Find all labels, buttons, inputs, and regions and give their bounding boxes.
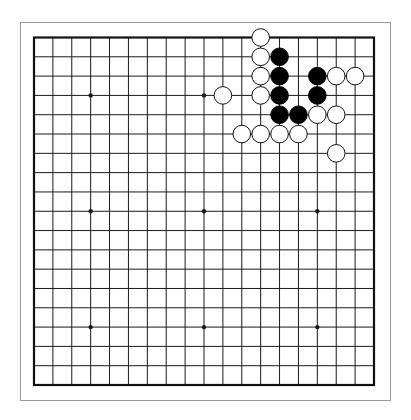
star-point	[88, 325, 92, 329]
black-stone[interactable]	[290, 106, 308, 124]
star-point	[88, 209, 92, 213]
white-stone[interactable]	[271, 125, 289, 143]
white-stone[interactable]	[214, 87, 232, 105]
black-stone[interactable]	[309, 87, 327, 105]
star-point	[88, 93, 92, 97]
star-point	[315, 325, 319, 329]
white-stone[interactable]	[233, 125, 251, 143]
white-stone[interactable]	[327, 145, 345, 163]
white-stone[interactable]	[252, 29, 270, 47]
black-stone[interactable]	[271, 48, 289, 66]
black-stone[interactable]	[271, 67, 289, 85]
white-stone[interactable]	[252, 48, 270, 66]
star-point	[315, 209, 319, 213]
white-stone[interactable]	[252, 87, 270, 105]
go-board[interactable]	[0, 0, 411, 420]
white-stone[interactable]	[309, 106, 327, 124]
star-point	[202, 93, 206, 97]
white-stone[interactable]	[327, 106, 345, 124]
white-stone[interactable]	[290, 125, 308, 143]
white-stone[interactable]	[252, 67, 270, 85]
black-stone[interactable]	[271, 106, 289, 124]
star-point	[202, 209, 206, 213]
white-stone[interactable]	[346, 67, 364, 85]
black-stone[interactable]	[271, 87, 289, 105]
white-stone[interactable]	[327, 67, 345, 85]
black-stone[interactable]	[309, 67, 327, 85]
white-stone[interactable]	[252, 125, 270, 143]
star-point	[202, 325, 206, 329]
